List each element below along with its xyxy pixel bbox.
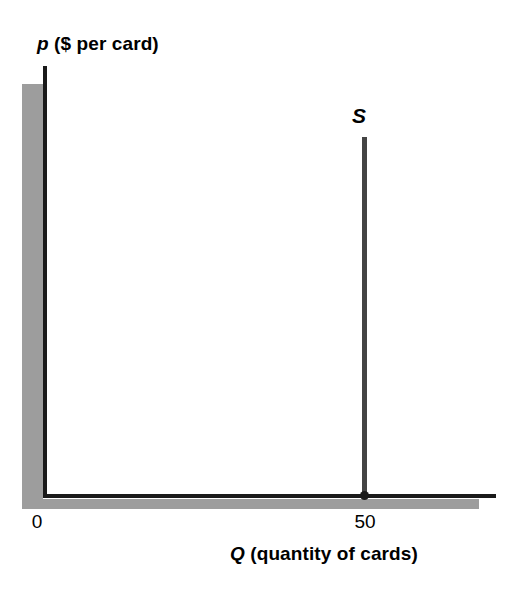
supply-curve-figure: p ($ per card) S 0 50 Q (quantity of car…: [0, 0, 515, 592]
x-axis-shadow: [22, 499, 479, 509]
y-axis-symbol: p: [37, 33, 49, 54]
x-axis-title: Q (quantity of cards): [230, 543, 418, 565]
x-axis-title-text: (quantity of cards): [245, 543, 418, 564]
y-axis-title: p ($ per card): [37, 33, 159, 55]
supply-curve-label: S: [352, 104, 366, 128]
y-axis-title-text: ($ per card): [49, 33, 159, 54]
x-axis-tick-label-50: 50: [343, 511, 387, 533]
supply-curve-line: [362, 137, 367, 496]
origin-tick-label: 0: [26, 511, 48, 533]
y-axis-line: [43, 66, 47, 498]
supply-intercept-point: [360, 491, 369, 500]
x-axis-line: [43, 494, 496, 498]
y-axis-shadow: [22, 84, 43, 509]
x-axis-symbol: Q: [230, 543, 245, 564]
